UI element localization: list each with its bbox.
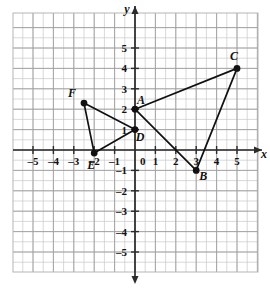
y-axis-arrow bbox=[132, 6, 139, 14]
x-tick-label: 4 bbox=[214, 155, 220, 167]
point-e bbox=[91, 150, 98, 157]
x-tick-label: –5 bbox=[27, 155, 40, 167]
x-tick-label: –4 bbox=[47, 155, 60, 167]
x-tick-label: 2 bbox=[173, 155, 179, 167]
point-c bbox=[234, 65, 241, 72]
x-axis-label: x bbox=[260, 147, 267, 161]
y-tick-label: 4 bbox=[122, 62, 128, 74]
point-label-b: B bbox=[198, 169, 207, 183]
y-axis-label: y bbox=[122, 2, 130, 16]
y-axis-arrow-bottom bbox=[132, 276, 139, 284]
y-tick-label: 2 bbox=[122, 103, 128, 115]
point-label-a: A bbox=[136, 93, 145, 107]
y-tick-label: 5 bbox=[122, 42, 128, 54]
coordinate-plane-figure: –5–4–3–2–1012345–5–4–3–2–112345 y x ABCD… bbox=[0, 0, 270, 288]
y-tick-label: –1 bbox=[115, 164, 127, 176]
point-label-e: E bbox=[86, 158, 95, 172]
y-tick-label: 3 bbox=[122, 83, 128, 95]
y-tick-label: –2 bbox=[115, 185, 128, 197]
y-tick-label: –3 bbox=[115, 205, 128, 217]
x-tick-label: 1 bbox=[153, 155, 159, 167]
origin-label: 0 bbox=[140, 155, 146, 167]
point-label-d: D bbox=[135, 130, 145, 144]
point-label-f: F bbox=[67, 86, 76, 100]
coordinate-plane-svg: –5–4–3–2–1012345–5–4–3–2–112345 y x ABCD… bbox=[0, 0, 270, 288]
y-tick-label: –5 bbox=[115, 246, 128, 258]
point-label-c: C bbox=[230, 49, 239, 63]
x-tick-label: 5 bbox=[234, 155, 240, 167]
point-f bbox=[81, 100, 88, 107]
y-tick-label: –4 bbox=[115, 226, 128, 238]
x-tick-label: –3 bbox=[67, 155, 80, 167]
